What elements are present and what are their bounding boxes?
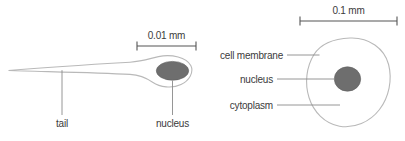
sperm-scale-bar: 0.01 mm bbox=[137, 30, 196, 51]
sperm-nucleus-shape bbox=[156, 61, 188, 80]
sperm-nucleus-label: nucleus bbox=[156, 118, 189, 129]
diagram-canvas: 0.01 mm tail nucleus 0.1 mm bbox=[0, 0, 405, 141]
egg-scale-bar: 0.1 mm bbox=[300, 5, 397, 26]
egg-nucleus-label: nucleus bbox=[240, 74, 273, 85]
sperm-cell-group: 0.01 mm tail nucleus bbox=[9, 30, 197, 129]
egg-nucleus-shape bbox=[334, 67, 360, 91]
sperm-scale-label: 0.01 mm bbox=[148, 30, 186, 41]
egg-cell-membrane-label: cell membrane bbox=[220, 50, 284, 61]
egg-scale-label: 0.1 mm bbox=[332, 5, 364, 16]
egg-cell-group: 0.1 mm cell membrane nucleus cytoplasm bbox=[220, 5, 397, 127]
cell-comparison-diagram: 0.01 mm tail nucleus 0.1 mm bbox=[0, 0, 405, 141]
egg-cytoplasm-label: cytoplasm bbox=[230, 100, 273, 111]
sperm-tail-label: tail bbox=[56, 118, 68, 129]
